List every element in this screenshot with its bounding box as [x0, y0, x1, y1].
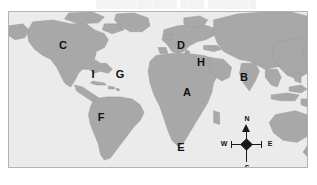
land-lesser-antilles	[116, 88, 119, 91]
land-british-isles	[166, 34, 172, 40]
land-indonesia-b	[289, 85, 307, 93]
compass-label-south: S	[241, 164, 253, 168]
compass-rose: N S W E	[223, 115, 271, 168]
map-label-d: D	[174, 40, 188, 51]
compass-center-diamond-icon	[240, 138, 253, 151]
world-map-figure: ██████████ ███ ████████ ███	[0, 0, 317, 185]
map-frame: C D H B I G A F E N S W E	[8, 11, 308, 168]
map-label-h: H	[194, 57, 208, 68]
land-cuba	[90, 81, 106, 85]
land-iberia-tip	[158, 48, 168, 54]
map-label-g: G	[113, 69, 127, 80]
land-indonesia-a	[271, 93, 299, 101]
land-new-zealand	[303, 146, 307, 156]
land-new-guinea	[301, 99, 307, 107]
compass-label-north: N	[241, 115, 253, 123]
compass-east-tick	[261, 141, 262, 148]
land-australia	[269, 111, 307, 143]
land-philippines	[293, 73, 301, 83]
map-label-a: A	[180, 87, 194, 98]
land-arctic-islands-b	[102, 24, 124, 34]
land-alaska	[9, 24, 29, 40]
compass-west-tick	[231, 141, 232, 148]
map-label-c: C	[56, 40, 70, 51]
map-label-i: I	[86, 69, 100, 80]
map-label-e: E	[174, 142, 188, 153]
compass-label-east: E	[264, 140, 276, 148]
land-southeast-asia	[265, 69, 281, 87]
land-africa	[148, 53, 220, 146]
top-watermark-text: ██████████ ███ ████████ ███	[96, 0, 256, 9]
land-south-america	[88, 97, 144, 160]
land-arctic-islands-a	[65, 12, 105, 24]
compass-north-arrow-icon	[242, 124, 250, 132]
compass-label-west: W	[218, 140, 230, 148]
map-label-b: B	[237, 72, 251, 83]
land-madagascar	[214, 111, 220, 125]
map-label-f: F	[94, 112, 108, 123]
land-hispaniola	[108, 86, 114, 89]
land-black-sea-region	[204, 46, 222, 52]
